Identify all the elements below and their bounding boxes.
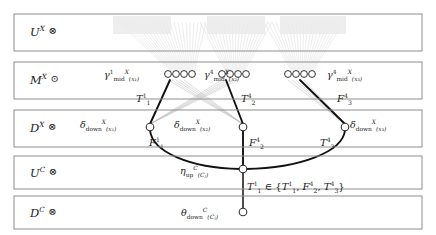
row-label-ux-sup: X [40,24,45,33]
gamma-3-sup: 4 [333,69,337,75]
edge-label-f11: F11 [149,137,164,151]
membership-lhs-sup: 1 [254,180,258,187]
eta-space: C [193,165,198,171]
cross-fan-c2-to-dx1 [150,80,238,124]
membership-close-brace: } [338,181,344,192]
gamma-2-sup: 4 [210,69,214,75]
theta-space: C [203,207,208,213]
f34-sub: 3 [348,99,352,106]
delta-2-arg: (x₂) [200,126,210,132]
f24-base: F [249,137,256,148]
t34-base: T [320,137,327,148]
delta-label-3: δdownX(x₃) [350,120,386,133]
row-label-uc: UC ⊗ [30,166,57,179]
cross-fan-c1-to-dx2 [168,80,243,124]
gamma-1-space: X [125,69,129,75]
dx-node-2 [239,123,247,131]
row-label-ux-base: U [30,25,40,39]
gamma-3-sub: mid [336,76,347,82]
edge-label-f34: F43 [337,93,352,107]
delta-label-1: δdownX(x₁) [80,120,116,133]
theta-label: θdownC(Cⱼ) [181,208,218,221]
t11-sup: 1 [143,92,147,99]
diagram-svg [0,0,436,235]
gamma-3-space: X [348,69,352,75]
theta-sub: down [187,214,203,220]
gamma-2-sub: mid [213,76,224,82]
delta-2-sub: down [180,126,196,132]
delta-label-2: δdownX(x₂) [174,120,210,133]
gamma-1-arg: (x₁) [129,76,139,82]
membership-lhs-base: T [247,181,254,192]
gamma-3-arg: (x₃) [352,76,362,82]
delta-3-sub: down [356,126,372,132]
bold-edge-c1-dx1 [150,80,170,124]
faint-band-blocks [113,16,346,34]
membership-label: T11 ∈ {T11, F42, T43} [247,181,345,195]
gamma-label-1: γ1midX(x₁) [104,70,139,83]
curve-edge-group [150,130,345,169]
gamma-label-2: γ4midX(x₂) [204,70,239,83]
f24-sup: 4 [256,136,260,143]
f11-base: F [149,137,156,148]
gamma-label-3: γ4midX(x₃) [327,70,362,83]
row-label-ux: UX ⊗ [30,25,57,38]
row-label-dc-base: D [30,206,39,220]
delta-1-arg: (x₁) [106,126,116,132]
t34-sub: 3 [331,143,335,150]
t24-sub: 2 [252,99,256,106]
odot-icon-mx: ⊙ [51,74,59,84]
row-label-dx-sup: X [39,120,44,129]
tensor-icon-dc: ⊗ [48,207,56,217]
row-label-mx-sup: X [42,72,47,81]
row-label-dx-base: D [30,121,39,135]
row-label-mx: MX ⊙ [30,73,59,86]
eta-arg: (Cⱼ) [198,172,209,178]
diagram-canvas: UX ⊗ MX ⊙ DX ⊗ UC ⊗ DC ⊗ γ1midX(x₁) γ4mi… [0,0,436,235]
tensor-icon-ux: ⊗ [48,26,56,36]
gamma-1-sup: 1 [110,69,114,75]
t24-sup: 4 [248,92,252,99]
row-label-uc-base: U [30,166,40,180]
edge-label-f24: F42 [249,137,264,151]
set-item-2-sup: 4 [330,180,334,187]
faint-fan-group [113,16,346,72]
f11-sup: 1 [156,136,160,143]
row-box-dc [14,196,422,229]
gamma-2-space: X [225,69,229,75]
delta-1-sub: down [86,126,102,132]
eta-label: ηupC(Cⱼ) [180,166,208,179]
edge-label-t11: T11 [136,93,151,107]
f34-sup: 4 [344,92,348,99]
gamma-1-sub: mid [113,76,124,82]
delta-1-space: X [102,119,106,125]
delta-3-space: X [372,119,376,125]
gamma-2-arg: (x₂) [229,76,239,82]
row-label-dc-sup: C [39,205,44,214]
t11-base: T [136,93,143,104]
f11-sub: 1 [160,143,164,150]
row-label-uc-sup: C [40,165,45,174]
tensor-icon-dx: ⊗ [48,122,56,132]
t11-sub: 1 [147,99,151,106]
tensor-icon-uc: ⊗ [49,167,57,177]
dc-node [239,208,247,216]
f34-base: F [337,93,344,104]
set-item-0-sup: 1 [288,180,292,187]
eta-sub: up [186,172,194,178]
row-label-dc: DC ⊗ [30,206,57,219]
dx-node-1 [146,123,154,131]
delta-3-arg: (x₃) [376,126,386,132]
uc-node [239,165,247,173]
row-box-uc [14,156,422,189]
t24-base: T [241,93,248,104]
row-label-dx: DX ⊗ [30,121,56,134]
set-item-1-base: F [303,181,310,192]
dx-node-3 [341,123,349,131]
row-label-mx-base: M [30,73,42,87]
edge-label-t24: T42 [241,93,256,107]
f24-sub: 2 [260,143,264,150]
t34-sup: 4 [327,136,331,143]
delta-2-space: X [196,119,200,125]
theta-arg: (Cⱼ) [207,214,218,220]
